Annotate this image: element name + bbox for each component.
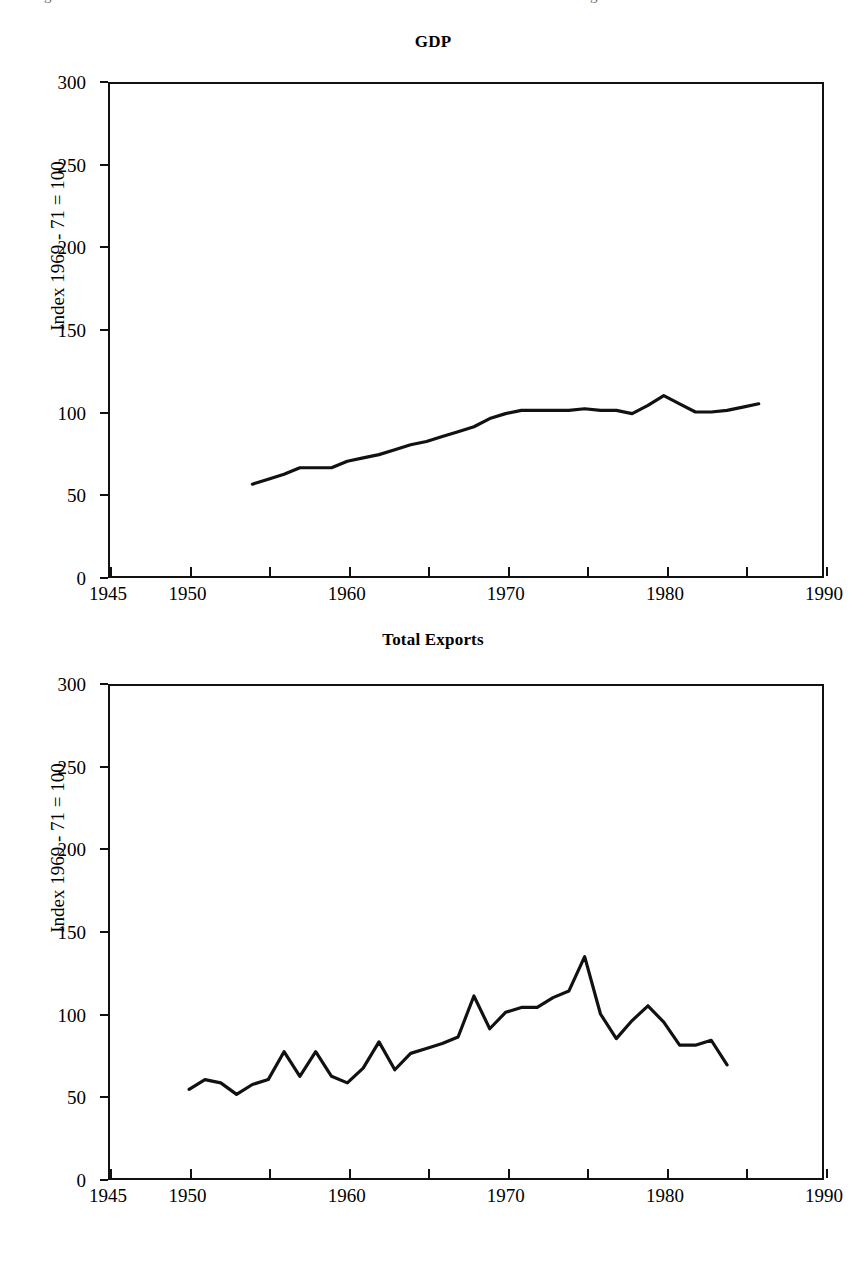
x-tick-mark	[428, 1169, 430, 1178]
x-tick-mark	[508, 1169, 510, 1178]
y-tick-label: 300	[58, 73, 87, 92]
y-tick-label: 250	[58, 757, 87, 776]
x-tick-mark	[269, 567, 271, 576]
y-axis-labels-gdp: 050100150200250300	[0, 82, 100, 578]
chart-title-total-exports: Total Exports	[0, 630, 866, 650]
exports-polyline	[189, 957, 727, 1095]
gdp-polyline	[252, 396, 758, 485]
series-line-gdp	[110, 84, 822, 576]
x-tick-mark	[190, 1169, 192, 1178]
plot-frame-gdp	[108, 82, 824, 578]
y-tick-mark	[100, 246, 108, 248]
x-tick-label: 1990	[805, 584, 843, 603]
x-tick-label: 1970	[487, 584, 525, 603]
y-tick-label: 200	[58, 238, 87, 257]
figure-page: g g GDP Index 1969 - 71 = 100 0501001502…	[0, 0, 866, 1274]
x-tick-mark	[826, 1169, 828, 1178]
x-tick-mark	[269, 1169, 271, 1178]
y-tick-label: 100	[58, 403, 87, 422]
y-tick-mark	[100, 766, 108, 768]
y-tick-label: 150	[58, 321, 87, 340]
plot-area-gdp: Index 1969 - 71 = 100 050100150200250300…	[0, 60, 866, 620]
y-tick-mark	[100, 494, 108, 496]
y-tick-mark	[100, 329, 108, 331]
y-tick-mark	[100, 1014, 108, 1016]
x-tick-mark	[349, 567, 351, 576]
x-tick-mark	[826, 567, 828, 576]
plot-area-total-exports: Index 1969 - 71 = 100 050100150200250300…	[0, 662, 866, 1232]
plot-frame-total-exports	[108, 684, 824, 1180]
y-tick-mark	[100, 577, 108, 579]
cut-off-text-right: g	[590, 0, 598, 4]
x-tick-mark	[746, 1169, 748, 1178]
x-axis-labels-total-exports: 194519501960197019801990	[0, 1186, 866, 1216]
chart-title-gdp: GDP	[0, 32, 866, 52]
y-tick-label: 50	[67, 486, 86, 505]
cut-off-text-left: g	[44, 0, 52, 4]
y-tick-label: 150	[58, 923, 87, 942]
y-tick-label: 200	[58, 840, 87, 859]
x-tick-mark	[428, 567, 430, 576]
y-tick-mark	[100, 848, 108, 850]
x-tick-mark	[110, 1169, 112, 1178]
x-tick-mark	[587, 1169, 589, 1178]
chart-gdp: GDP Index 1969 - 71 = 100 05010015020025…	[0, 22, 866, 632]
x-tick-label: 1945	[89, 1186, 127, 1205]
y-tick-label: 250	[58, 155, 87, 174]
chart-total-exports: Total Exports Index 1969 - 71 = 100 0501…	[0, 630, 866, 1250]
x-tick-mark	[110, 567, 112, 576]
x-tick-label: 1960	[328, 1186, 366, 1205]
x-tick-mark	[667, 567, 669, 576]
y-tick-mark	[100, 683, 108, 685]
y-tick-mark	[100, 81, 108, 83]
x-tick-mark	[667, 1169, 669, 1178]
x-tick-label: 1970	[487, 1186, 525, 1205]
y-tick-mark	[100, 931, 108, 933]
y-tick-mark	[100, 1096, 108, 1098]
x-tick-mark	[746, 567, 748, 576]
x-tick-mark	[587, 567, 589, 576]
x-tick-mark	[349, 1169, 351, 1178]
y-tick-label: 300	[58, 675, 87, 694]
x-tick-mark	[190, 567, 192, 576]
x-tick-label: 1960	[328, 584, 366, 603]
y-tick-mark	[100, 412, 108, 414]
y-tick-mark	[100, 1179, 108, 1181]
y-tick-label: 50	[67, 1088, 86, 1107]
x-tick-label: 1950	[169, 584, 207, 603]
x-tick-label: 1945	[89, 584, 127, 603]
x-tick-mark	[508, 567, 510, 576]
series-line-total-exports	[110, 686, 822, 1178]
y-tick-mark	[100, 164, 108, 166]
y-tick-label: 100	[58, 1005, 87, 1024]
y-axis-labels-total-exports: 050100150200250300	[0, 684, 100, 1180]
x-tick-label: 1990	[805, 1186, 843, 1205]
x-tick-label: 1950	[169, 1186, 207, 1205]
cut-off-text-strip: g g	[0, 0, 866, 14]
x-tick-label: 1980	[646, 1186, 684, 1205]
x-tick-label: 1980	[646, 584, 684, 603]
x-axis-labels-gdp: 194519501960197019801990	[0, 584, 866, 614]
